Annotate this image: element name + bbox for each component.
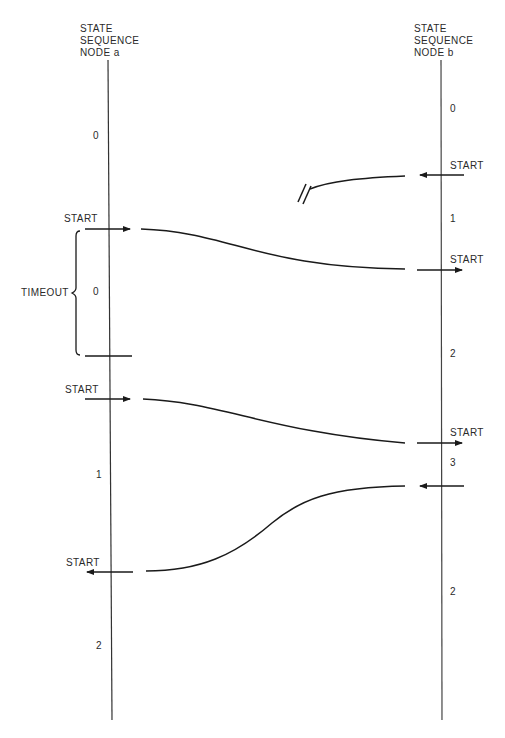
message-4-path <box>146 486 405 571</box>
node-a-start-label: START <box>66 557 100 569</box>
node-a-state: 0 <box>93 130 99 142</box>
header-line: SEQUENCE <box>80 35 139 47</box>
message-2-path <box>141 229 405 269</box>
node-a-start-label: START <box>65 384 99 396</box>
node-a-state: 2 <box>96 640 102 652</box>
node-b-start-label: START <box>450 160 484 172</box>
node-b-timeline <box>441 60 442 720</box>
node-a-state: 1 <box>96 469 102 481</box>
sequence-diagram <box>0 0 505 738</box>
node-a-header: STATE SEQUENCE NODE a <box>80 23 139 59</box>
node-b-state: 2 <box>450 348 456 360</box>
header-line: SEQUENCE <box>414 35 473 47</box>
node-b-state: 1 <box>450 213 456 225</box>
node-b-header: STATE SEQUENCE NODE b <box>414 23 473 59</box>
header-line: NODE b <box>414 47 473 59</box>
timeout-label: TIMEOUT <box>21 287 69 299</box>
node-b-state: 3 <box>450 457 456 469</box>
timeout-brace <box>72 231 80 355</box>
node-a-start-label: START <box>64 213 98 225</box>
header-line: STATE <box>80 23 139 35</box>
node-a-state: 0 <box>93 286 99 298</box>
header-line: NODE a <box>80 47 139 59</box>
lost-message-path <box>310 176 405 189</box>
node-b-state: 2 <box>450 586 456 598</box>
message-3-path <box>143 399 405 443</box>
header-line: STATE <box>414 23 473 35</box>
node-a-timeline <box>108 60 112 720</box>
node-b-state: 0 <box>450 103 456 115</box>
node-b-start-label: START <box>450 427 484 439</box>
node-b-start-label: START <box>450 254 484 266</box>
